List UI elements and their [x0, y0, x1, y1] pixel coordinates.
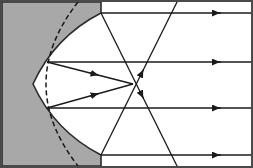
optics-ray-diagram	[0, 0, 253, 168]
diagram-canvas	[0, 0, 253, 168]
